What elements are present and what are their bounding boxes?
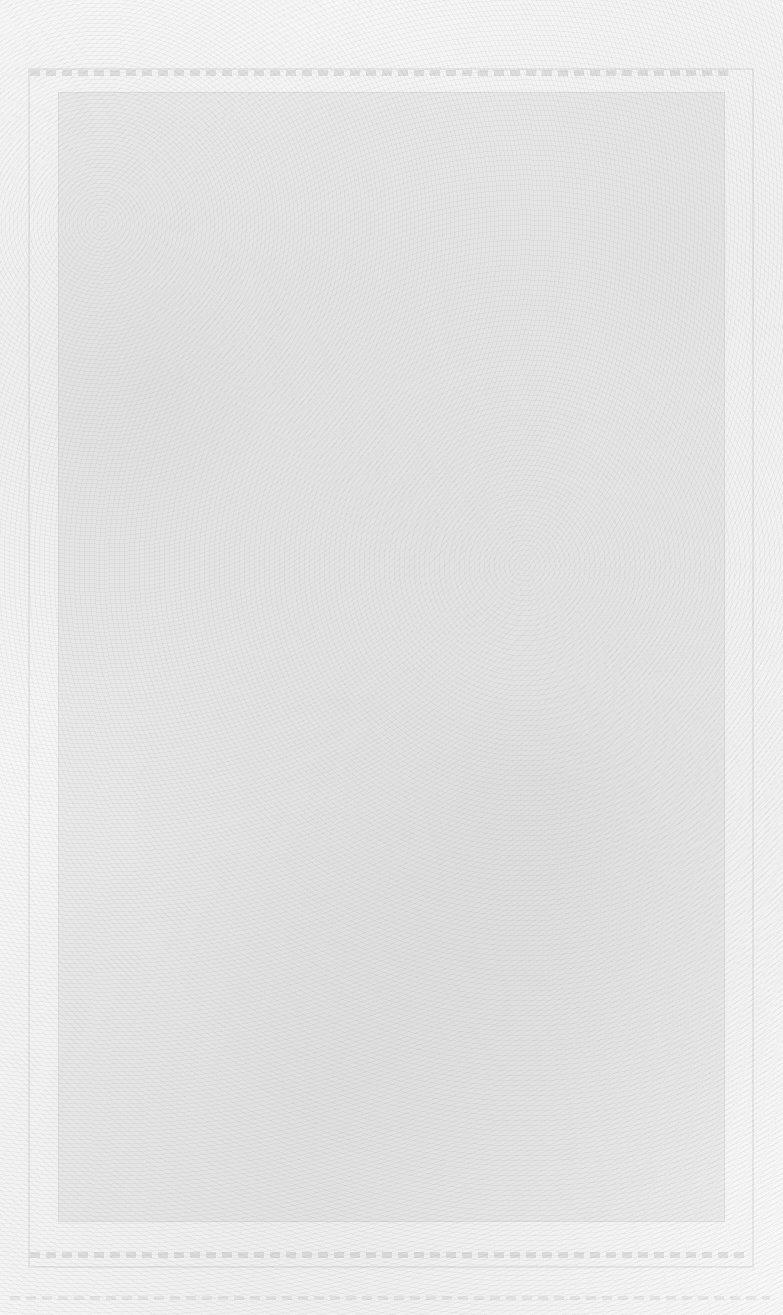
content-area-illegible [58, 92, 725, 1222]
scanned-page [0, 0, 783, 1315]
illegible-page-edge-text [10, 1296, 770, 1300]
illegible-footer-text [30, 1252, 750, 1258]
